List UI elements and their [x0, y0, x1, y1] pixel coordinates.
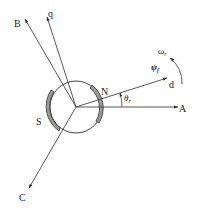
label-psi-f: ψf — [151, 62, 160, 73]
theta-arc-arrow — [120, 93, 122, 107]
pmsm-rotor-axis-diagram: A d q B C N S θr ψf ωr — [0, 0, 198, 215]
label-c: C — [19, 192, 26, 203]
magnet-south — [46, 90, 60, 131]
label-theta-r: θr — [124, 93, 131, 104]
label-omega-r: ωr — [158, 46, 167, 57]
label-s: S — [36, 116, 42, 127]
label-b: B — [14, 18, 21, 29]
label-d: d — [169, 79, 174, 90]
label-a: A — [179, 103, 187, 114]
label-q: q — [48, 8, 53, 19]
label-n: N — [101, 86, 108, 97]
